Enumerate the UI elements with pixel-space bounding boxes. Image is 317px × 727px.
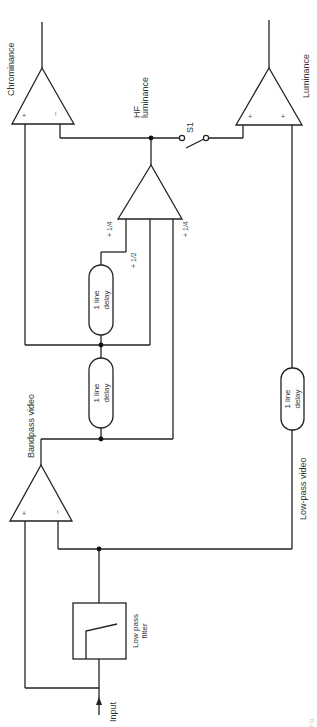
comb-filter-diagram: + − + + + − 1 line delay 1 line delay 1 … — [0, 0, 317, 727]
bandpass-video-label: Bandpass video — [26, 394, 36, 458]
weight-labels: + 1/4 + 1/2 + 1/4 — [106, 221, 189, 268]
svg-text:1/2: 1/2 — [130, 252, 137, 262]
chrominance-amplifier: + − — [12, 68, 74, 124]
svg-text:delay: delay — [102, 290, 111, 309]
input-arrow-icon — [96, 697, 102, 715]
lowpass-video-label: Low-pass video — [298, 457, 308, 520]
svg-text:S1: S1 — [185, 122, 195, 133]
luminance-label: Luminance — [301, 54, 311, 98]
svg-text:Low pass: Low pass — [131, 614, 140, 648]
luminance-amplifier: + + — [236, 68, 302, 125]
signal-labels: Input Bandpass video Low-pass video HF l… — [6, 42, 314, 727]
svg-text:−: − — [54, 510, 61, 514]
svg-text:delay: delay — [293, 389, 302, 408]
svg-text:+: + — [130, 264, 137, 268]
svg-text:filter: filter — [140, 623, 149, 638]
svg-text:1 line: 1 line — [283, 389, 292, 409]
svg-text:+: + — [248, 113, 252, 120]
svg-text:+: + — [281, 113, 285, 120]
delay-upper: 1 line delay — [89, 265, 113, 335]
svg-text:1/4: 1/4 — [182, 221, 189, 231]
svg-text:+: + — [106, 233, 113, 237]
delay-lower: 1 line delay — [89, 358, 113, 428]
svg-text:1/4: 1/4 — [106, 221, 113, 231]
svg-text:+: + — [22, 510, 26, 517]
hf-luminance-label-2: luminance — [140, 77, 150, 118]
svg-text:1 line: 1 line — [92, 383, 101, 403]
svg-text:−: − — [52, 112, 59, 116]
svg-text:delay: delay — [102, 383, 111, 402]
svg-text:+: + — [182, 233, 189, 237]
switch-s1: S1 — [179, 122, 208, 141]
figure-caption: Fig. — [308, 717, 314, 727]
svg-text:1 line: 1 line — [92, 290, 101, 310]
summing-amplifier — [118, 165, 182, 219]
chrominance-label: Chrominance — [6, 42, 16, 96]
low-pass-filter: Low pass filter — [73, 603, 149, 659]
input-label: Input — [108, 701, 118, 722]
delay-lowpass: 1 line delay — [281, 368, 304, 430]
bandpass-amplifier: + − — [10, 465, 72, 521]
svg-text:+: + — [22, 112, 26, 119]
